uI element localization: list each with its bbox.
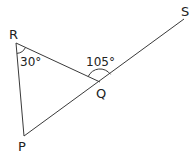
angle-value-q: 105° [86,55,115,69]
angle-arc-r [17,47,26,53]
label-r: R [9,27,18,42]
triangle-diagram: R Q P S 30° 105° [0,0,194,153]
line-ps [24,19,184,136]
label-q: Q [96,86,106,101]
label-p: P [18,139,26,153]
label-s: S [181,4,189,19]
angle-value-r: 30° [20,55,41,69]
